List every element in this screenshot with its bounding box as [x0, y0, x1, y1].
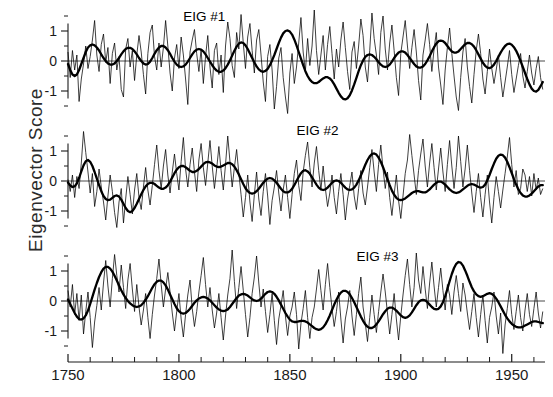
y-tick-label: 0: [49, 53, 57, 69]
y-tick-label: 0: [49, 173, 57, 189]
y-tick-label: -1: [45, 203, 58, 219]
x-tick-label: 1900: [384, 366, 417, 383]
figure-container: Eigenvector Score 10-1EIG #110-1EIG #210…: [0, 0, 553, 397]
x-tick-label: 1750: [51, 366, 84, 383]
series-smoothed-panel-3: [68, 262, 543, 330]
x-tick-label: 1800: [162, 366, 195, 383]
series-annual-panel-2: [68, 132, 543, 228]
y-tick-label: -1: [45, 323, 58, 339]
y-tick-label: 1: [49, 23, 57, 39]
eigenvector-score-chart: 10-1EIG #110-1EIG #210-1EIG #31750180018…: [0, 0, 553, 397]
panel-label-2: EIG #2: [297, 123, 339, 138]
series-smoothed-panel-1: [68, 30, 543, 99]
panel-label-1: EIG #1: [183, 9, 225, 24]
y-tick-label: -1: [45, 83, 58, 99]
series-annual-panel-1: [68, 10, 543, 114]
series-annual-panel-3: [68, 250, 543, 354]
x-tick-label: 1950: [495, 366, 528, 383]
panel-label-3: EIG #3: [356, 249, 398, 264]
y-tick-label: 1: [49, 143, 57, 159]
x-tick-label: 1850: [273, 366, 306, 383]
series-smoothed-panel-2: [68, 153, 543, 212]
y-tick-label: 1: [49, 263, 57, 279]
y-tick-label: 0: [49, 293, 57, 309]
